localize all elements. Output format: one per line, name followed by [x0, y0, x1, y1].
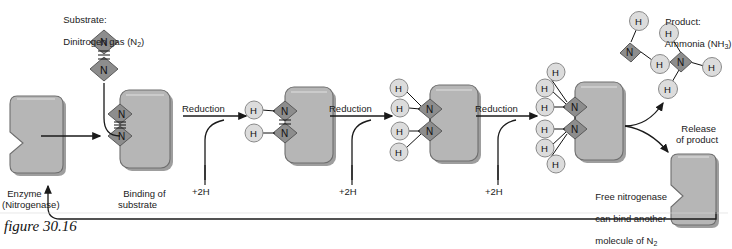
enzyme-recycled-shape	[671, 154, 719, 228]
svg-text:N: N	[281, 106, 288, 117]
plus-2h-label-3: +2H	[485, 186, 503, 197]
svg-text:H: H	[250, 128, 257, 139]
free-nitrogenase-label: Free nitrogenase can bind another molecu…	[590, 180, 667, 249]
svg-text:H: H	[396, 126, 403, 137]
stage5-hydrogens: HH HH HH	[536, 63, 567, 173]
arrow-release-product	[625, 103, 663, 126]
svg-text:H: H	[541, 102, 548, 113]
stage4-hydrogens: HH HH	[390, 79, 421, 161]
arrow-2h-2	[352, 120, 371, 180]
enzyme-stage4-shape	[430, 85, 481, 164]
svg-text:H: H	[708, 62, 715, 73]
svg-text:H: H	[396, 103, 403, 114]
svg-text:H: H	[552, 67, 559, 78]
svg-text:H: H	[395, 147, 402, 158]
arrow-to-free-enzyme	[625, 126, 668, 152]
release-label: Releaseof product	[676, 112, 718, 145]
plus-2h-label-1: +2H	[192, 186, 210, 197]
binding-label: Binding ofsubstrate	[118, 177, 166, 210]
figure-caption: figure 30.16	[4, 218, 77, 235]
svg-text:H: H	[541, 124, 548, 135]
svg-text:H: H	[635, 16, 642, 27]
svg-text:N: N	[281, 128, 288, 139]
enzyme-label: Enzyme(Nitrogenase)	[2, 177, 60, 210]
enzyme-bound-shape	[120, 90, 173, 171]
arrow-2h-1	[205, 120, 224, 180]
svg-text:N: N	[426, 126, 433, 137]
svg-text:N: N	[100, 64, 108, 76]
svg-text:N: N	[677, 57, 684, 68]
plus-2h-label-2: +2H	[339, 186, 357, 197]
svg-text:H: H	[656, 59, 663, 70]
reduction-label-3: Reduction	[475, 103, 518, 114]
svg-text:H: H	[541, 143, 548, 154]
svg-text:H: H	[395, 83, 402, 94]
arrow-2h-3	[498, 120, 516, 180]
reduction-label-2: Reduction	[329, 103, 372, 114]
svg-text:N: N	[118, 109, 125, 120]
stage3-hydrogens: H H	[245, 101, 275, 142]
svg-text:H: H	[664, 84, 671, 95]
svg-text:H: H	[541, 83, 548, 94]
reduction-label-1: Reduction	[182, 103, 225, 114]
svg-text:N: N	[626, 47, 633, 58]
product-label: Product: Ammonia (NH3)	[660, 5, 732, 52]
enzyme-stage5-shape	[575, 82, 626, 163]
svg-text:H: H	[250, 105, 257, 116]
svg-text:N: N	[571, 124, 578, 135]
svg-text:H: H	[552, 159, 559, 170]
substrate-label: Substrate: Dinitrogen gas (N2)	[58, 3, 144, 50]
svg-text:N: N	[571, 102, 578, 113]
svg-text:N: N	[426, 104, 433, 115]
enzyme-stage3-shape	[285, 87, 336, 166]
